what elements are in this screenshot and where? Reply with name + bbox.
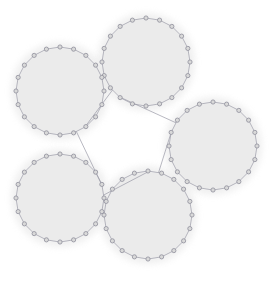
graph-node — [16, 103, 20, 107]
graph-node — [72, 154, 76, 158]
graph-node — [84, 160, 88, 164]
graph-node — [58, 152, 62, 156]
graph-node — [167, 144, 171, 148]
graph-node — [110, 187, 114, 191]
graph-node — [190, 213, 194, 217]
graph-node — [182, 239, 186, 243]
graph-node — [44, 131, 48, 135]
graph-node — [22, 63, 26, 67]
graph-node — [104, 227, 108, 231]
graph-node — [132, 255, 136, 259]
graph-node — [58, 240, 62, 244]
graph-node — [14, 89, 18, 93]
graph-node — [172, 177, 176, 181]
graph-node — [146, 257, 150, 261]
graph-node — [100, 60, 104, 64]
graph-node — [185, 108, 189, 112]
graph-node — [186, 46, 190, 50]
graph-node — [247, 170, 251, 174]
graph-node — [100, 103, 104, 107]
graph-node — [180, 86, 184, 90]
graph-node — [247, 118, 251, 122]
graph-node — [144, 16, 148, 20]
graph-node — [170, 96, 174, 100]
graph-node — [170, 24, 174, 28]
graph-node — [197, 102, 201, 106]
graph-node — [169, 158, 173, 162]
graph-node — [58, 133, 62, 137]
graph-node — [172, 249, 176, 253]
graph-node — [188, 60, 192, 64]
graph-node — [84, 125, 88, 129]
cluster-disc — [170, 103, 256, 189]
graph-node — [118, 24, 122, 28]
graph-node — [44, 47, 48, 51]
graph-node — [58, 45, 62, 49]
graph-node — [108, 34, 112, 38]
graph-node — [211, 100, 215, 104]
graph-node — [160, 255, 164, 259]
graph-node — [22, 170, 26, 174]
graph-node — [185, 180, 189, 184]
graph-node — [253, 158, 257, 162]
graph-node — [100, 75, 104, 79]
graph-node — [14, 196, 18, 200]
graph-node — [94, 63, 98, 67]
graph-node — [16, 75, 20, 79]
graph-node — [197, 186, 201, 190]
graph-node — [32, 232, 36, 236]
graph-node — [72, 238, 76, 242]
graph-node — [120, 249, 124, 253]
graph-node — [158, 102, 162, 106]
graph-node — [100, 182, 104, 186]
graph-node — [32, 125, 36, 129]
graph-node — [94, 115, 98, 119]
graph-node — [100, 210, 104, 214]
graph-node — [182, 187, 186, 191]
graph-node — [211, 188, 215, 192]
cluster-disc — [105, 172, 191, 258]
graph-node — [84, 232, 88, 236]
graph-node — [180, 34, 184, 38]
graph-node — [237, 108, 241, 112]
graph-node — [160, 171, 164, 175]
graph-node — [130, 18, 134, 22]
graph-node — [72, 131, 76, 135]
graph-node — [146, 169, 150, 173]
graph-node — [175, 170, 179, 174]
graph-node — [16, 210, 20, 214]
graph-node — [72, 47, 76, 51]
graph-node — [32, 160, 36, 164]
graph-node — [94, 170, 98, 174]
graph-node — [225, 102, 229, 106]
graph-node — [255, 144, 259, 148]
graph-node — [94, 222, 98, 226]
graph-node — [186, 74, 190, 78]
graph-node — [102, 89, 106, 93]
graph-node — [118, 96, 122, 100]
graph-node — [175, 118, 179, 122]
graph-node — [44, 154, 48, 158]
graph-node — [22, 222, 26, 226]
graph-node — [144, 104, 148, 108]
graph-node — [102, 196, 106, 200]
graph-node — [130, 102, 134, 106]
graph-node — [16, 182, 20, 186]
network-graph-svg — [0, 0, 269, 284]
graph-node — [158, 18, 162, 22]
graph-canvas — [0, 0, 269, 284]
cluster-disc — [17, 155, 103, 241]
graph-node — [237, 180, 241, 184]
graph-node — [253, 130, 257, 134]
graph-node — [120, 177, 124, 181]
graph-node — [188, 227, 192, 231]
cluster-disc — [17, 48, 103, 134]
graph-node — [44, 238, 48, 242]
cluster-disc — [103, 19, 189, 105]
graph-node — [132, 171, 136, 175]
graph-node — [110, 239, 114, 243]
graph-node — [108, 86, 112, 90]
graph-node — [169, 130, 173, 134]
graph-node — [225, 186, 229, 190]
graph-node — [188, 199, 192, 203]
